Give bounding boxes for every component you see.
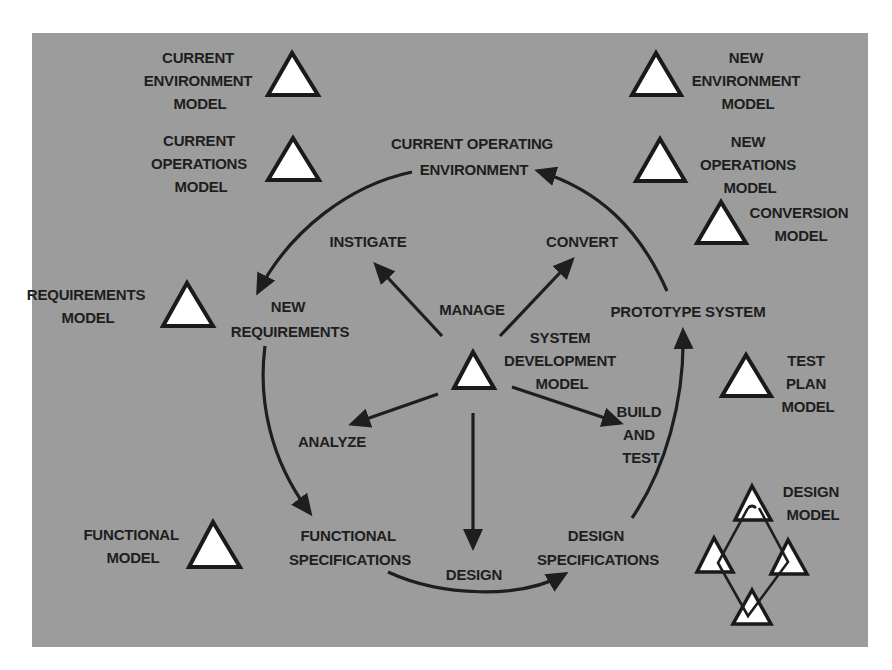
system-development-model-label: SYSTEM DEVELOPMENT MODEL: [504, 329, 620, 392]
system-development-model-triangle-icon[interactable]: [454, 352, 494, 388]
design-specifications-label: DESIGN SPECIFICATIONS: [537, 527, 659, 568]
current-environment-model-label: CURRENT ENVIRONMENT MODEL: [144, 49, 257, 112]
conversion-model-triangle-icon[interactable]: [697, 202, 746, 243]
requirements-model-triangle-icon[interactable]: [163, 283, 213, 326]
requirements-model-label: REQUIREMENTS MODEL: [27, 286, 149, 326]
new-operations-model-label: NEW OPERATIONS MODEL: [700, 133, 800, 196]
prototype-system-label: PROTOTYPE SYSTEM: [611, 303, 766, 320]
spoke-instigate: [376, 265, 442, 336]
current-operations-model-triangle-icon[interactable]: [268, 138, 319, 180]
arc-current-to-new-requirements: [258, 172, 412, 292]
spoke-analyze: [352, 394, 438, 424]
analyze-label: ANALYZE: [298, 433, 366, 450]
arc-design-spec-to-prototype: [632, 331, 683, 518]
current-operating-environment-label: CURRENT OPERATING ENVIRONMENT: [391, 135, 557, 178]
instigate-label: INSTIGATE: [329, 233, 406, 250]
new-requirements-label: NEW REQUIREMENTS: [231, 298, 350, 340]
system-development-cycle-diagram: CURRENT OPERATING ENVIRONMENT NEW REQUIR…: [0, 0, 892, 670]
conversion-model-label: CONVERSION MODEL: [750, 204, 853, 244]
new-environment-model-triangle-icon[interactable]: [632, 53, 681, 95]
manage-label: MANAGE: [439, 301, 505, 318]
functional-specifications-label: FUNCTIONAL SPECIFICATIONS: [289, 527, 411, 568]
current-operations-model-label: CURRENT OPERATIONS MODEL: [151, 132, 251, 195]
convert-label: CONVERT: [546, 233, 618, 250]
test-plan-model-label: TEST PLAN MODEL: [781, 352, 834, 415]
spoke-build-test: [512, 387, 620, 423]
arc-prototype-to-current: [538, 171, 667, 291]
functional-model-label: FUNCTIONAL MODEL: [83, 526, 182, 566]
current-environment-model-triangle-icon[interactable]: [268, 53, 318, 95]
new-environment-model-label: NEW ENVIRONMENT MODEL: [692, 49, 805, 112]
spoke-convert: [500, 260, 572, 336]
test-plan-model-triangle-icon[interactable]: [722, 355, 771, 396]
functional-model-triangle-icon[interactable]: [189, 522, 240, 567]
design-model-label: DESIGN MODEL: [783, 483, 843, 523]
build-and-test-label: BUILD AND TEST: [617, 403, 666, 466]
new-operations-model-triangle-icon[interactable]: [636, 139, 685, 181]
design-label: DESIGN: [446, 566, 502, 583]
arc-requirements-to-functional-spec: [263, 346, 310, 513]
